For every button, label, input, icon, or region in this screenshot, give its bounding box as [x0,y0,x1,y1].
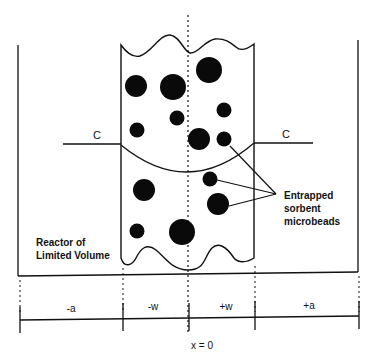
bead [130,123,145,138]
bead [170,111,185,126]
beads-label-line3: microbeads [284,216,341,227]
bead [188,128,210,150]
microbeads [125,57,232,245]
reactor-label-line1: Reactor of [36,237,86,248]
bead [169,219,195,245]
origin-label: x = 0 [191,340,213,351]
concentration-profile-arc [121,143,254,172]
bead [160,74,186,100]
leader-line [230,146,276,194]
reactor-label-line2: Limited Volume [36,250,110,261]
concentration-label-right: C [282,128,290,140]
bead [196,57,222,83]
beads-label-line2: sorbent [284,203,321,214]
bead [217,132,232,147]
segment-label-minus-a: -a [67,303,76,314]
segment-label-plus-w: +w [219,301,233,312]
bead [130,224,145,239]
bead [133,179,155,201]
beads-label-line1: Entrapped [284,190,333,201]
bead [217,103,232,118]
bead [125,75,147,97]
leader-line [217,180,276,194]
diagram-canvas: C C Entrapped sorbent microbeads Reactor… [0,0,377,360]
segment-label-minus-w: -w [148,301,159,312]
bead [203,172,218,187]
leader-line [229,194,276,206]
bead [207,193,229,215]
segment-label-plus-a: +a [303,300,315,311]
concentration-label-left: C [93,129,101,141]
